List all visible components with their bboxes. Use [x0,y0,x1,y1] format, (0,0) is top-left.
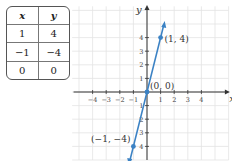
line-graph: xy−4−3−2−1123443211234(1, 4)(0, 0)(−1, −… [0,0,232,161]
y-tick-label: 3 [139,48,143,56]
x-axis-label: x [229,93,232,104]
arrow-up-icon [161,21,166,28]
y-axis-arrow-icon [145,5,150,10]
label-neg1-neg4: (−1, −4) [91,134,130,144]
label-0-0: (0, 0) [150,81,174,91]
x-tick-label: −2 [115,96,125,104]
x-tick-label: 1 [159,96,163,104]
x-tick-label: −4 [88,96,98,104]
y-tick-label: 1 [139,75,143,83]
x-tick-label: 2 [172,96,176,104]
data-point [131,144,136,149]
y-tick-label: 4 [139,143,143,151]
label-1-4: (1, 4) [165,34,189,44]
data-point [158,35,163,40]
x-tick-label: −1 [129,96,139,104]
y-tick-label: 4 [139,34,143,42]
y-tick-label: 2 [139,61,143,69]
x-tick-label: −3 [101,96,111,104]
x-tick-label: 4 [199,96,203,104]
x-tick-label: 3 [186,96,190,104]
data-point [145,90,150,95]
y-tick-label: 3 [139,129,143,137]
y-axis-label: y [135,4,142,15]
